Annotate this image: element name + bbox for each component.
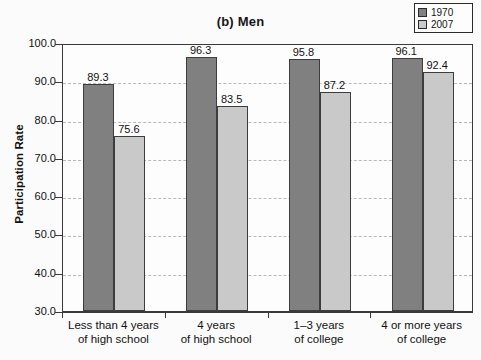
- y-tick-label: 70.0: [10, 153, 56, 164]
- bar-value-label: 89.3: [76, 71, 119, 83]
- x-axis-group-label: 4 or more yearsof college: [360, 318, 481, 346]
- chart-title: (b) Men: [0, 14, 481, 29]
- y-tick-label: 30.0: [10, 306, 56, 317]
- y-tick-label: 100.0: [10, 38, 56, 49]
- bar-2007-group-1: [114, 136, 145, 311]
- bar-value-label: 96.1: [385, 45, 428, 57]
- bar-1970-group-1: [83, 84, 114, 311]
- x-tick-mark: [370, 312, 371, 318]
- bar-value-label: 83.5: [210, 93, 253, 105]
- y-tick-label: 60.0: [10, 191, 56, 202]
- y-tick-mark: [55, 121, 62, 122]
- bar-2007-group-4: [423, 72, 454, 311]
- x-axis-group-label-line: of college: [360, 332, 481, 346]
- x-tick-mark: [62, 312, 63, 318]
- x-tick-mark: [165, 312, 166, 318]
- x-axis-line: [55, 312, 473, 313]
- bar-value-label: 87.2: [313, 79, 356, 91]
- bar-2007-group-2: [217, 106, 248, 311]
- y-tick-mark: [55, 159, 62, 160]
- bar-value-label: 92.4: [416, 59, 459, 71]
- chart-legend: 1970 2007: [414, 3, 473, 33]
- y-tick-mark: [55, 235, 62, 236]
- y-tick-label: 50.0: [10, 229, 56, 240]
- y-tick-mark: [55, 82, 62, 83]
- legend-label-1970: 1970: [431, 7, 453, 18]
- y-tick-label: 90.0: [10, 76, 56, 87]
- bar-value-label: 96.3: [179, 44, 222, 56]
- x-tick-mark: [268, 312, 269, 318]
- legend-swatch-1970: [418, 8, 427, 17]
- y-tick-label: 80.0: [10, 115, 56, 126]
- legend-label-2007: 2007: [431, 19, 453, 30]
- legend-swatch-2007: [418, 20, 427, 29]
- bar-value-label: 75.6: [107, 123, 150, 135]
- legend-entry-1970: 1970: [418, 6, 469, 18]
- y-tick-label: 40.0: [10, 268, 56, 279]
- plot-area: [62, 44, 473, 312]
- bar-1970-group-3: [289, 59, 320, 311]
- bar-chart: (b) Men 1970 2007 Participation Rate 100…: [0, 0, 481, 360]
- y-tick-mark: [55, 197, 62, 198]
- legend-entry-2007: 2007: [418, 18, 469, 30]
- y-tick-mark: [55, 44, 62, 45]
- bar-2007-group-3: [320, 92, 351, 311]
- y-tick-mark: [55, 312, 62, 313]
- bar-value-label: 95.8: [282, 46, 325, 58]
- y-tick-mark: [55, 274, 62, 275]
- bar-1970-group-4: [392, 58, 423, 311]
- x-axis-group-label-line: 4 or more years: [360, 318, 481, 332]
